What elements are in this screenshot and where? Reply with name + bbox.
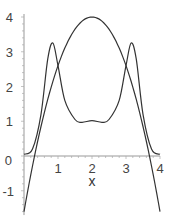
y-tick-label: -1	[2, 184, 14, 199]
line-chart: 1234-101234 x	[0, 0, 169, 223]
series-double-peak	[24, 43, 160, 154]
y-tick-label: 1	[6, 114, 13, 129]
y-tick-label: 2	[6, 80, 13, 95]
x-tick-label: 4	[156, 161, 163, 176]
y-tick-label: 0	[5, 153, 12, 168]
x-axis-label: x	[89, 173, 96, 189]
x-tick-label: 1	[54, 161, 61, 176]
y-tick-label: 4	[6, 10, 13, 25]
x-tick-label: 3	[122, 161, 129, 176]
y-tick-label: 3	[6, 45, 13, 60]
